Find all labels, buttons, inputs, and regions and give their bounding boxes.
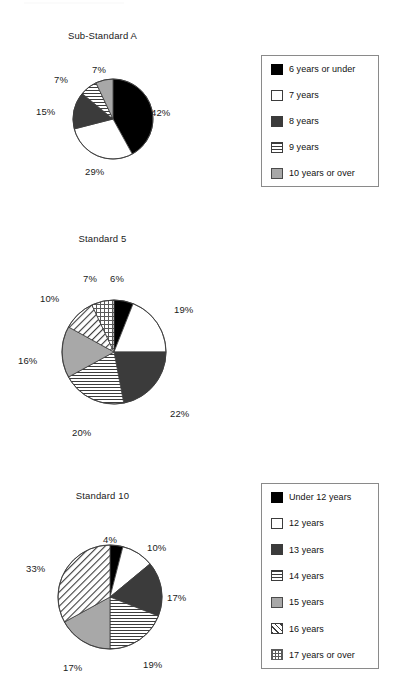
legend-swatch-icon <box>271 64 283 75</box>
slice-percentage-label: 7% <box>92 64 106 75</box>
slice-percentage-label: 17% <box>63 662 82 673</box>
slice-percentage-label: 16% <box>18 355 37 366</box>
slice-percentage-label: 15% <box>36 106 55 117</box>
slice-percentage-label: 20% <box>72 427 91 438</box>
chart-title: Standard 10 <box>0 490 205 501</box>
chart-block-standard-5: Standard 5 Under 12 years12 years13 year… <box>0 220 396 470</box>
chart-legend: 6 years or under7 years8 years9 years10 … <box>261 55 379 187</box>
legend-item[interactable]: 10 years or over <box>271 166 372 180</box>
slice-percentage-label: 29% <box>85 166 104 177</box>
chart-block-standard-10: Standard 10 Under 17 years17 years18 yea… <box>0 470 396 694</box>
legend-item[interactable]: 6 years or under <box>271 62 372 76</box>
slice-percentage-label: 19% <box>174 304 193 315</box>
legend-swatch-icon <box>271 168 283 179</box>
legend-item-label: 8 years <box>289 116 319 126</box>
slice-percentage-label: 42% <box>151 107 170 118</box>
slice-percentage-label: 17% <box>167 592 186 603</box>
slice-percentage-label: 10% <box>147 542 166 553</box>
legend-item[interactable]: 8 years <box>271 114 372 128</box>
slice-percentage-label: 7% <box>54 74 68 85</box>
legend-item-label: 9 years <box>289 142 319 152</box>
slice-percentage-label: 6% <box>110 273 124 284</box>
slice-percentage-label: 22% <box>170 408 189 419</box>
slice-percentage-label: 7% <box>83 273 97 284</box>
legend-item[interactable]: 7 years <box>271 88 372 102</box>
slice-percentage-label: 4% <box>103 534 117 545</box>
legend-item-label: 7 years <box>289 90 319 100</box>
legend-item-label: 6 years or under <box>289 64 355 74</box>
slice-percentage-label: 33% <box>26 563 45 574</box>
legend-item[interactable]: 9 years <box>271 140 372 154</box>
chart-block-sub-standard-a: Sub-Standard A 6 years or under7 years8 … <box>0 0 396 220</box>
chart-title: Sub-Standard A <box>0 30 205 41</box>
slice-percentage-label: 19% <box>143 659 162 670</box>
legend-item-label: 10 years or over <box>289 168 355 178</box>
slice-percentage-label: 10% <box>40 293 59 304</box>
legend-swatch-icon <box>271 90 283 101</box>
legend-swatch-icon <box>271 116 283 127</box>
legend-swatch-icon <box>271 142 283 153</box>
chart-title: Standard 5 <box>0 233 205 244</box>
